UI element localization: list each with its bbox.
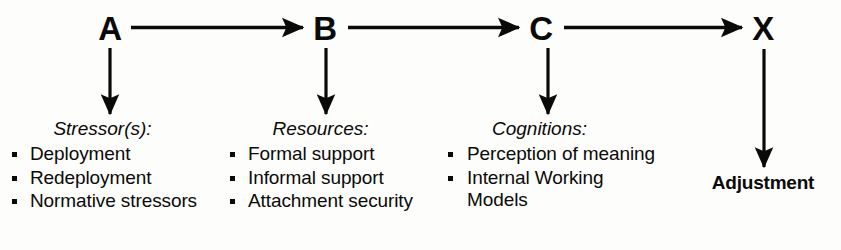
list-item: Informal support — [226, 167, 431, 190]
list-item: Attachment security — [226, 190, 431, 213]
node-a: A — [87, 12, 133, 45]
list-item-label: Redeployment — [30, 167, 151, 188]
bullet-list: Deployment Redeployment Normative stress… — [8, 143, 213, 213]
square-bullet-icon — [230, 199, 235, 204]
category-title: Resources: — [226, 118, 431, 140]
square-bullet-icon — [448, 176, 453, 181]
list-item: Internal Working Models — [444, 167, 659, 213]
list-item-label: Perception of meaning — [467, 143, 655, 164]
outcome-label: Adjustment — [712, 172, 815, 194]
bullet-list: Formal support Informal support Attachme… — [226, 143, 431, 213]
list-item: Redeployment — [8, 167, 213, 190]
list-item: Normative stressors — [8, 190, 213, 213]
list-item-label: Formal support — [248, 143, 374, 164]
square-bullet-icon — [230, 176, 235, 181]
category-title: Stressor(s): — [8, 118, 213, 140]
list-item: Deployment — [8, 143, 213, 166]
category-stressors: Stressor(s): Deployment Redeployment Nor… — [8, 118, 213, 214]
list-item-label: Deployment — [30, 143, 130, 164]
list-item-label: Internal Working Models — [467, 167, 603, 211]
category-cognitions: Cognitions: Perception of meaning Intern… — [444, 118, 659, 213]
square-bullet-icon — [12, 199, 17, 204]
list-item-label: Attachment security — [248, 190, 413, 211]
square-bullet-icon — [230, 152, 235, 157]
bullet-list: Perception of meaning Internal Working M… — [444, 143, 659, 212]
category-title: Cognitions: — [444, 118, 659, 140]
list-item-label: Informal support — [248, 167, 384, 188]
list-item: Formal support — [226, 143, 431, 166]
node-b: B — [302, 12, 348, 45]
concept-diagram: A B C X Adjustment Stressor(s): Deployme… — [0, 0, 841, 250]
list-item: Perception of meaning — [444, 143, 659, 166]
square-bullet-icon — [12, 152, 17, 157]
node-c: C — [518, 12, 564, 45]
category-resources: Resources: Formal support Informal suppo… — [226, 118, 431, 214]
square-bullet-icon — [12, 176, 17, 181]
square-bullet-icon — [448, 152, 453, 157]
node-x: X — [740, 12, 786, 45]
list-item-label: Normative stressors — [30, 190, 197, 211]
